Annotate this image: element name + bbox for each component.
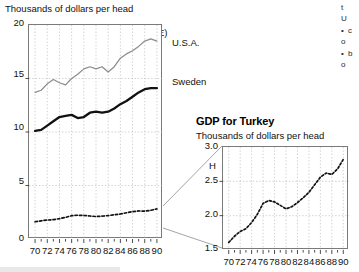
main-plot-area <box>28 24 162 238</box>
inset-ytick-3-0: 3.0 <box>194 141 218 151</box>
panel-tag-h: H <box>209 161 216 171</box>
footer-strip <box>0 267 120 272</box>
margin-note-line: t <box>341 2 359 13</box>
margin-note-line: U <box>341 13 359 24</box>
main-ytick-10: 10 <box>6 122 24 132</box>
margin-note-line: •c <box>341 25 359 36</box>
inset-ytick-2-0: 2.0 <box>194 209 218 219</box>
series-label-sweden: Sweden <box>172 77 206 87</box>
margin-note-line: o <box>341 36 359 47</box>
margin-note-line: o <box>341 59 359 70</box>
main-ytick-5: 5 <box>6 176 24 186</box>
inset-plot-svg <box>223 147 349 250</box>
margin-note-line: •b <box>341 48 359 59</box>
main-ytick-0: 0 <box>6 233 24 243</box>
figure-canvas: Thousands of dollars per head G (enlarge… <box>0 0 359 272</box>
main-plot-svg <box>29 25 163 239</box>
margin-note-text-fragment: o <box>341 37 345 46</box>
main-ytick-15: 15 <box>6 69 24 79</box>
margin-note-text-fragment: U <box>341 14 347 23</box>
inset-ytick-1-5: 1.5 <box>194 243 218 253</box>
margin-note-text-fragment: c <box>348 26 352 35</box>
margin-note-text: tU•co•bo <box>341 2 359 106</box>
inset-plot-area <box>222 146 348 249</box>
bullet-icon: • <box>341 48 348 59</box>
inset-ytick-2-5: 2.5 <box>194 175 218 185</box>
main-ytick-20: 20 <box>6 18 24 28</box>
margin-note-text-fragment: t <box>341 3 343 12</box>
main-y-axis-label: Thousands of dollars per head <box>5 4 133 14</box>
main-xtick-90: 90 <box>150 246 164 256</box>
margin-note-text-fragment: o <box>341 60 345 69</box>
bullet-icon: • <box>341 25 348 36</box>
inset-title: GDP for Turkey <box>196 116 274 127</box>
series-label-usa: U.S.A. <box>172 38 199 48</box>
inset-xtick-90: 90 <box>336 257 350 267</box>
margin-note-text-fragment: b <box>348 49 352 58</box>
